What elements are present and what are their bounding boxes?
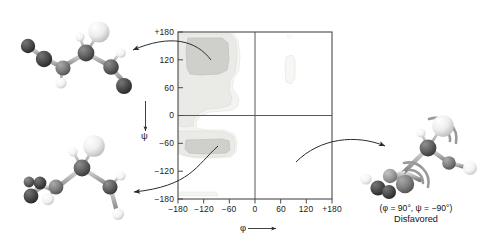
atom-hydrogen <box>116 171 125 180</box>
atom-highlight-sphere <box>88 21 109 42</box>
atom-carbon <box>24 177 35 188</box>
atom-carbon-center <box>78 45 95 62</box>
atom-hydrogen <box>116 48 126 58</box>
disfavored-caption-angles: (φ = 90°, ψ = −90°) <box>344 203 488 214</box>
disfavored-caption-text: Disfavored <box>344 214 488 226</box>
atom-carbon <box>442 156 456 170</box>
atom-hydrogen <box>360 173 371 184</box>
atom-hydrogen <box>55 77 66 88</box>
atom-carbon-alpha <box>420 140 437 157</box>
atom-carbon-alpha <box>49 180 64 195</box>
atom-carbon <box>102 179 117 194</box>
atom-highlight-sphere <box>83 135 105 157</box>
molecule-disfavored <box>360 115 477 199</box>
atom-oxygen <box>24 189 39 204</box>
molecule-beta-extended <box>21 21 132 94</box>
ramachandran-figure: +180 120 60 0 −60 −120 −180 −180 −120 −6… <box>0 0 488 246</box>
atom-carbon <box>36 51 52 67</box>
disfavored-caption: (φ = 90°, ψ = −90°) Disfavored <box>344 203 488 225</box>
y-tick-60-neg: −60 <box>134 139 174 148</box>
atom-carbon <box>382 185 396 199</box>
y-tick-60-pos: 60 <box>134 84 174 93</box>
phi-axis-label: φ <box>240 223 246 233</box>
atom-hydrogen <box>42 193 54 205</box>
atom-carbon-clashing <box>396 175 414 193</box>
atom-carbon-center <box>74 160 91 177</box>
y-tick-180-neg: −180 <box>134 195 174 204</box>
atom-hydrogen <box>416 128 425 137</box>
atom-hydrogen-terminal <box>112 208 124 220</box>
atom-carbon-alpha <box>55 60 70 75</box>
atom-highlight-sphere <box>432 115 454 137</box>
atom-nitrogen <box>383 169 397 183</box>
y-tick-120-neg: −120 <box>134 167 174 176</box>
atom-carbon <box>103 59 119 75</box>
y-tick-0: 0 <box>134 111 174 120</box>
atom-oxygen-terminal <box>116 78 132 94</box>
atom-hydrogen <box>68 147 77 156</box>
atom-oxygen <box>21 39 35 53</box>
atom-hydrogen <box>75 32 84 41</box>
psi-axis-label: ψ <box>141 131 148 141</box>
molecule-alpha-helical <box>24 135 126 220</box>
atom-carbon <box>34 177 47 190</box>
y-tick-180-pos: +180 <box>134 28 174 37</box>
atom-hydrogen-terminal <box>463 161 477 175</box>
y-tick-120-pos: 120 <box>134 56 174 65</box>
